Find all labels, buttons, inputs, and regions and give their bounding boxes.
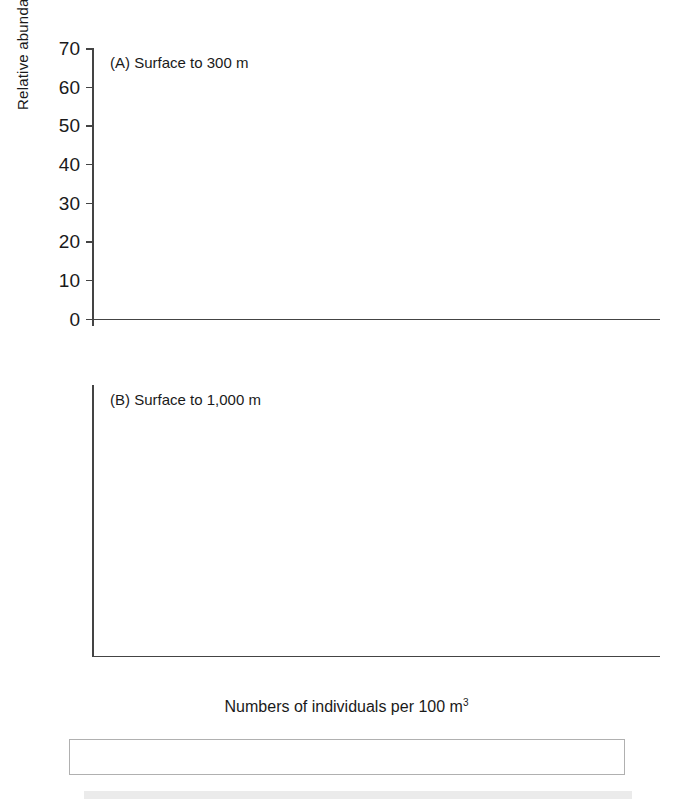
x-axis-label-text: Numbers of individuals per 100 m xyxy=(225,698,463,715)
panel-a-y-tick-label: 70 xyxy=(59,39,80,58)
panel-a-y-tick-label: 40 xyxy=(59,154,80,173)
x-axis-label: Numbers of individuals per 100 m3 xyxy=(0,697,693,716)
panel-b: (B) Surface to 1,000 m xyxy=(92,385,660,657)
panel-a-y-tick-label: 30 xyxy=(59,193,80,212)
panel-a-y-tick xyxy=(86,164,92,166)
panel-a-y-tick-label: 10 xyxy=(59,270,80,289)
page-bottom-strip xyxy=(84,791,632,799)
panel-a-title: (A) Surface to 300 m xyxy=(110,54,248,71)
panel-a-y-tick-label: 0 xyxy=(69,309,80,328)
panel-a-y-tick xyxy=(86,203,92,205)
panel-a-y-tick xyxy=(86,87,92,89)
y-axis-label-wrapper: Relative abundances(%) xyxy=(0,180,40,540)
panel-b-y-axis xyxy=(92,385,94,657)
y-axis-label: Relative abundances(%) xyxy=(14,0,40,206)
panel-a-y-tick xyxy=(86,125,92,127)
panel-a-y-tick xyxy=(86,241,92,243)
panel-a: (A) Surface to 300 m 010203040506070 xyxy=(92,48,660,320)
x-axis-label-exponent: 3 xyxy=(463,697,469,708)
panel-a-y-tick-label: 50 xyxy=(59,116,80,135)
panel-b-plot-area: (B) Surface to 1,000 m xyxy=(92,385,660,657)
panel-a-y-tick xyxy=(86,48,92,50)
panel-a-y-tick-label: 60 xyxy=(59,77,80,96)
panel-b-x-axis xyxy=(92,656,660,658)
figure-container: Relative abundances(%) (A) Surface to 30… xyxy=(0,0,693,802)
panel-b-title: (B) Surface to 1,000 m xyxy=(110,391,261,408)
panel-a-x-axis xyxy=(92,319,660,321)
panel-a-x-tick xyxy=(92,320,94,326)
panel-a-y-tick xyxy=(86,280,92,282)
panel-a-y-axis xyxy=(92,48,94,320)
panel-a-plot-area: (A) Surface to 300 m 010203040506070 xyxy=(92,48,660,320)
legend xyxy=(69,739,625,775)
panel-a-y-tick-label: 20 xyxy=(59,232,80,251)
